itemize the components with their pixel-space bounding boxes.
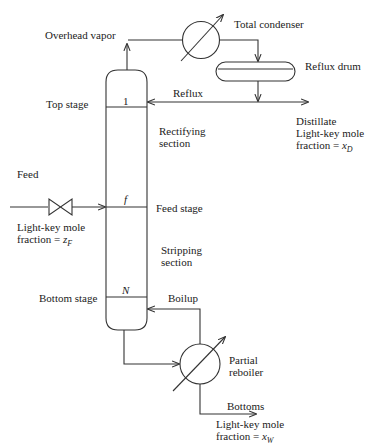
reflux-label: Reflux <box>173 87 203 99</box>
bottom-stage-label: Bottom stage <box>39 292 97 304</box>
reflux-drum-label: Reflux drum <box>305 60 361 72</box>
condenser-outlet-line <box>220 40 258 61</box>
stage-marker-top: 1 <box>123 95 129 107</box>
rectifying-section-label: Rectifying section <box>159 125 205 149</box>
reboiler-arrow <box>173 337 225 391</box>
bottoms-comp-line-1: Light-key mole <box>216 418 284 430</box>
bottoms-composition-label: Light-key mole fraction = xW <box>216 418 284 447</box>
stage-marker-feed: f <box>124 193 127 205</box>
distillate-line-2: Light-key mole <box>296 127 364 139</box>
feed-comp-line-2: fraction = zF <box>17 233 85 250</box>
rectifying-line-1: Rectifying <box>159 125 205 137</box>
stripping-line-1: Stripping <box>161 244 202 256</box>
stripping-line-2: section <box>161 256 202 268</box>
feed-comp-line-1: Light-key mole <box>17 221 85 233</box>
overhead-vapor-label: Overhead vapor <box>45 29 116 41</box>
bottoms-comp-line-2: fraction = xW <box>216 430 284 447</box>
distillate-line-1: Distillate <box>296 115 364 127</box>
partial-reboiler-label: Partial reboiler <box>229 354 263 378</box>
feed-composition-label: Light-key mole fraction = zF <box>17 221 85 250</box>
reflux-drum-icon <box>216 62 295 81</box>
reboiler-line-2: reboiler <box>229 366 263 378</box>
rectifying-line-2: section <box>159 137 205 149</box>
reboiler-line-1: Partial <box>229 354 263 366</box>
boilup-label: Boilup <box>168 292 198 304</box>
feed-valve-icon <box>49 199 72 215</box>
stage-marker-bottom: N <box>122 284 129 296</box>
feed-stage-label: Feed stage <box>156 202 203 214</box>
bottoms-label: Bottoms <box>227 400 264 412</box>
distillate-label: Distillate Light-key mole fraction = xD <box>296 115 364 156</box>
stripping-section-label: Stripping section <box>161 244 202 268</box>
feed-label: Feed <box>17 168 38 180</box>
boilup-line <box>148 309 200 344</box>
distillate-line-3: fraction = xD <box>296 139 364 156</box>
top-stage-label: Top stage <box>46 98 88 110</box>
reboiler-feed-line <box>124 330 179 364</box>
total-condenser-label: Total condenser <box>234 18 304 30</box>
